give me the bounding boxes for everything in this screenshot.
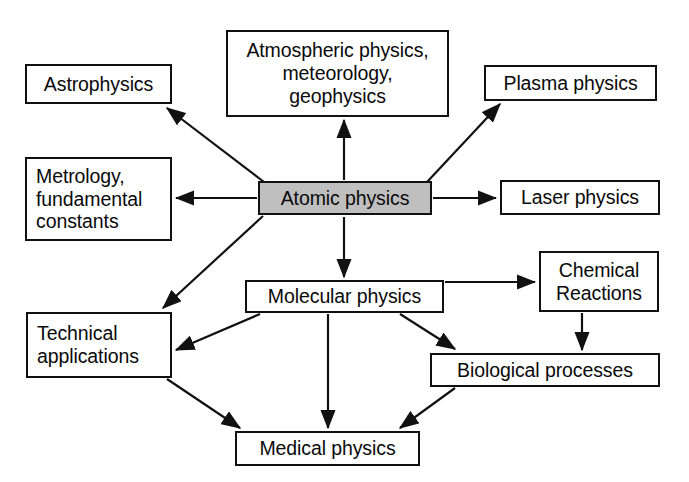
- node-label-technical: Technical applications: [37, 322, 170, 368]
- node-label-astrophysics: Astrophysics: [33, 73, 164, 96]
- node-technical[interactable]: Technical applications: [26, 312, 172, 378]
- node-label-medical: Medical physics: [243, 437, 412, 460]
- node-metrology[interactable]: Metrology, fundamental constants: [25, 157, 172, 241]
- node-chemical[interactable]: Chemical Reactions: [539, 251, 659, 312]
- node-label-atmospheric: Atmospheric physics, meteorology, geophy…: [234, 39, 441, 107]
- node-label-biological: Biological processes: [438, 359, 652, 382]
- diagram-canvas: AstrophysicsAtmospheric physics, meteoro…: [0, 0, 689, 482]
- node-atomic[interactable]: Atomic physics: [258, 181, 432, 215]
- node-medical[interactable]: Medical physics: [235, 431, 420, 466]
- arrow-atomic-to-astrophysics: [167, 108, 264, 182]
- arrow-molecular-to-biological: [400, 314, 455, 349]
- node-laser[interactable]: Laser physics: [500, 180, 660, 215]
- node-label-molecular: Molecular physics: [253, 285, 436, 308]
- arrow-molecular-to-technical: [176, 314, 260, 350]
- node-label-atomic: Atomic physics: [266, 187, 424, 210]
- node-atmospheric[interactable]: Atmospheric physics, meteorology, geophy…: [226, 30, 449, 117]
- node-label-metrology: Metrology, fundamental constants: [36, 165, 170, 233]
- arrow-biological-to-medical: [400, 388, 455, 428]
- node-biological[interactable]: Biological processes: [430, 353, 660, 387]
- arrow-technical-to-medical: [167, 379, 240, 428]
- node-molecular[interactable]: Molecular physics: [245, 280, 444, 313]
- node-label-laser: Laser physics: [508, 186, 652, 209]
- node-label-plasma: Plasma physics: [492, 72, 649, 95]
- node-plasma[interactable]: Plasma physics: [484, 65, 657, 101]
- node-label-chemical: Chemical Reactions: [547, 259, 651, 305]
- node-astrophysics[interactable]: Astrophysics: [25, 64, 172, 104]
